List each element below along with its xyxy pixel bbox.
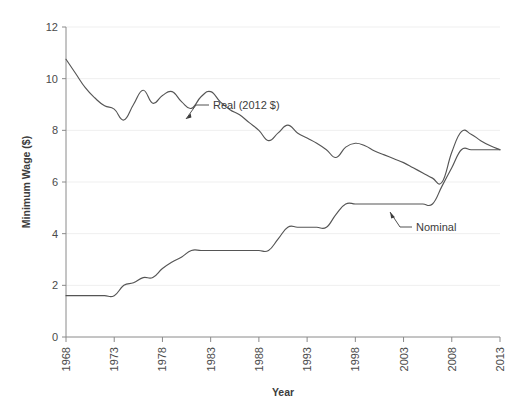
y-tick-label: 0 [52,331,58,343]
minimum-wage-chart: 024681012 196819731978198319881993199820… [0,0,529,418]
nominal-series-label: Nominal [416,221,456,233]
chart-canvas: 024681012 196819731978198319881993199820… [0,0,529,418]
data-series [66,59,500,296]
x-tick-label: 2003 [398,347,410,371]
y-tick-label: 4 [52,228,58,240]
x-tick-label: 1978 [156,347,168,371]
series-line [66,59,500,184]
y-axis-title: Minimum Wage ($) [20,136,32,228]
x-tick-label: 2008 [446,347,458,371]
x-tick-label: 1998 [349,347,361,371]
y-tick-label: 10 [46,73,58,85]
real-arrowhead-icon [186,113,191,119]
x-axis-ticks: 1968197319781983198819931998200320082013 [60,337,506,371]
x-tick-label: 1988 [253,347,265,371]
x-axis-title: Year [272,386,294,398]
y-tick-label: 12 [46,21,58,33]
x-tick-label: 1968 [60,347,72,371]
x-tick-label: 2013 [494,347,506,371]
y-tick-label: 6 [52,176,58,188]
real-series-label: Real (2012 $) [213,99,280,111]
x-tick-label: 1973 [108,347,120,371]
y-axis-ticks: 024681012 [46,21,66,343]
x-tick-label: 1993 [301,347,313,371]
y-tick-label: 2 [52,279,58,291]
gridlines [66,27,500,285]
x-tick-label: 1983 [205,347,217,371]
y-tick-label: 8 [52,124,58,136]
series-annotations: Real (2012 $) Nominal [186,99,456,233]
